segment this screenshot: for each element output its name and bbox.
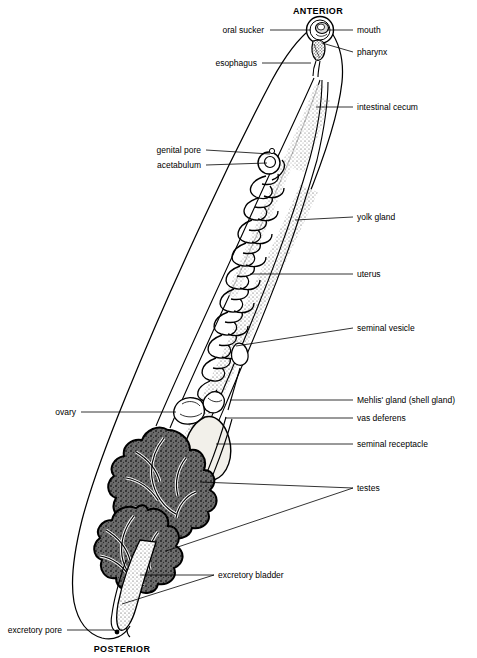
anterior-header: ANTERIOR [293,6,343,16]
oral-sucker-label: oral sucker [222,26,264,35]
acetabulum-label: acetabulum [157,161,201,170]
esophagus [313,61,320,77]
uterus-label: uterus [357,270,381,279]
excretory-pore-label: excretory pore [8,626,62,635]
testes-label: testes [357,484,380,493]
seminal-vesicle [232,343,249,365]
seminal-vesicle-label: seminal vesicle [357,324,415,333]
vas-deferens-label: vas deferens [357,414,406,423]
posterior-header: POSTERIOR [94,644,151,654]
ovary-label: ovary [55,408,76,417]
intestinal-cecum [156,78,328,446]
genital-pore-leader [206,150,270,154]
yolk-gland-label: yolk gland [357,213,395,222]
testes [94,428,216,593]
genital-pore-label: genital pore [157,146,201,155]
esophagus-label: esophagus [215,59,257,68]
excretory-bladder-label: excretory bladder [218,571,284,580]
mehlis-gland-label: Mehlis' gland (shell gland) [357,396,455,405]
seminal-vesicle-leader [236,328,353,346]
pharynx-label: pharynx [357,48,387,57]
fluke-anatomy-figure: ANTERIOR POSTERIOR oral suckermouthphary… [0,0,477,658]
intestinal-cecum-label: intestinal cecum [357,103,418,112]
seminal-receptacle-label: seminal receptacle [357,440,428,449]
excretory-pore [115,630,120,635]
genital-pore [269,148,274,153]
testes-leader [200,482,353,488]
mouth-label: mouth [357,26,381,35]
